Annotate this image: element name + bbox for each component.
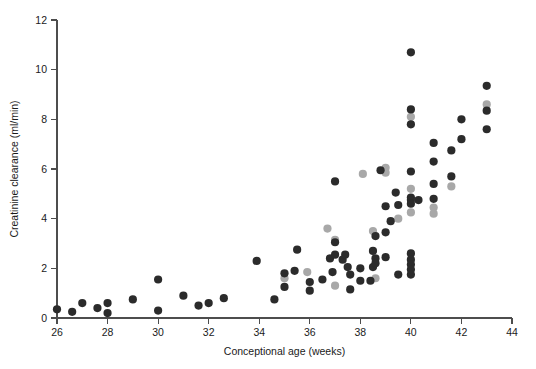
data-point xyxy=(179,292,187,300)
data-point xyxy=(407,48,415,56)
x-tick-label-42: 42 xyxy=(456,326,468,338)
data-point xyxy=(356,264,364,272)
data-point xyxy=(306,278,314,286)
data-point xyxy=(318,275,326,283)
data-point xyxy=(483,125,491,133)
x-axis-title: Conceptional age (weeks) xyxy=(224,345,345,357)
data-point xyxy=(328,268,336,276)
data-point xyxy=(407,105,415,113)
data-point xyxy=(382,253,390,261)
data-point xyxy=(194,301,202,309)
data-point xyxy=(394,270,402,278)
data-point xyxy=(331,238,339,246)
data-point xyxy=(394,201,402,209)
data-point xyxy=(392,188,400,196)
data-point xyxy=(331,177,339,185)
x-tick-label-40: 40 xyxy=(405,326,417,338)
data-point xyxy=(68,308,76,316)
x-tick-label-44: 44 xyxy=(506,326,518,338)
data-point xyxy=(483,82,491,90)
y-axis-title: Creatinine clearance (ml/min) xyxy=(8,100,20,237)
x-tick-label-34: 34 xyxy=(253,326,265,338)
series-gray xyxy=(280,100,490,289)
x-tick-label-36: 36 xyxy=(304,326,316,338)
series-dark xyxy=(53,48,491,317)
data-point xyxy=(331,282,339,290)
data-point xyxy=(93,304,101,312)
data-point xyxy=(154,275,162,283)
data-point xyxy=(483,107,491,115)
x-tick-label-28: 28 xyxy=(102,326,114,338)
data-point xyxy=(376,166,384,174)
data-point xyxy=(103,299,111,307)
data-point xyxy=(303,268,311,276)
data-point xyxy=(407,208,415,216)
x-tick-label-38: 38 xyxy=(354,326,366,338)
data-point xyxy=(407,185,415,193)
data-point xyxy=(356,277,364,285)
data-point xyxy=(280,269,288,277)
data-point xyxy=(407,167,415,175)
data-point xyxy=(382,202,390,210)
data-point xyxy=(407,200,415,208)
data-point xyxy=(323,225,331,233)
y-tick-label-2: 2 xyxy=(41,262,47,274)
data-point xyxy=(129,295,137,303)
data-point xyxy=(270,295,278,303)
data-point xyxy=(382,228,390,236)
data-point xyxy=(359,170,367,178)
data-point xyxy=(280,283,288,291)
y-tick-label-8: 8 xyxy=(41,113,47,125)
data-point xyxy=(291,267,299,275)
data-point xyxy=(414,196,422,204)
data-point xyxy=(53,305,61,313)
chart-canvas: 26283032343638404244024681012Conceptiona… xyxy=(0,0,536,369)
data-point xyxy=(407,120,415,128)
y-tick-label-12: 12 xyxy=(35,14,47,26)
y-tick-label-10: 10 xyxy=(35,63,47,75)
data-point xyxy=(457,115,465,123)
data-point xyxy=(78,299,86,307)
data-point xyxy=(253,257,261,265)
data-point xyxy=(369,247,377,255)
y-tick-label-4: 4 xyxy=(41,212,47,224)
x-tick-label-26: 26 xyxy=(51,326,63,338)
data-point xyxy=(430,157,438,165)
data-point xyxy=(366,277,374,285)
data-point xyxy=(346,285,354,293)
data-point xyxy=(293,246,301,254)
data-point xyxy=(394,215,402,223)
data-point xyxy=(306,287,314,295)
scatter-plot-figure: 26283032343638404244024681012Conceptiona… xyxy=(0,0,536,369)
data-point xyxy=(220,294,228,302)
data-point xyxy=(205,299,213,307)
data-point xyxy=(447,172,455,180)
data-point xyxy=(103,309,111,317)
data-point xyxy=(154,306,162,314)
data-point xyxy=(341,251,349,259)
data-point xyxy=(457,135,465,143)
x-tick-label-30: 30 xyxy=(152,326,164,338)
data-point xyxy=(430,195,438,203)
data-point xyxy=(447,146,455,154)
data-point xyxy=(387,217,395,225)
data-point xyxy=(430,139,438,147)
data-points-layer xyxy=(53,48,491,317)
data-point xyxy=(346,270,354,278)
x-tick-label-32: 32 xyxy=(203,326,215,338)
data-point xyxy=(447,182,455,190)
data-point xyxy=(430,180,438,188)
data-point xyxy=(407,270,415,278)
data-point xyxy=(430,210,438,218)
y-tick-label-6: 6 xyxy=(41,163,47,175)
data-point xyxy=(344,263,352,271)
data-point xyxy=(331,251,339,259)
data-point xyxy=(407,113,415,121)
y-tick-label-0: 0 xyxy=(41,312,47,324)
data-point xyxy=(371,232,379,240)
data-point xyxy=(371,259,379,267)
